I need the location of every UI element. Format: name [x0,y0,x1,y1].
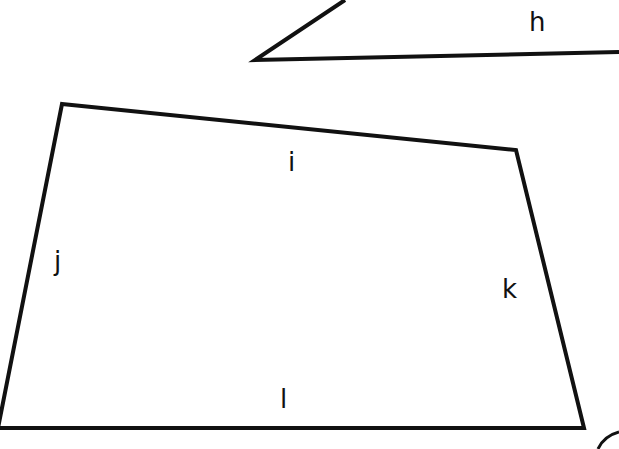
side-label-i: i [288,147,295,177]
geometry-diagram: h i j k l [0,0,619,449]
triangle-shape [255,0,619,60]
side-label-j: j [53,246,61,276]
side-label-h: h [529,7,545,37]
partial-curve-shape [598,432,619,449]
side-label-k: k [502,274,517,304]
side-label-l: l [280,384,287,414]
